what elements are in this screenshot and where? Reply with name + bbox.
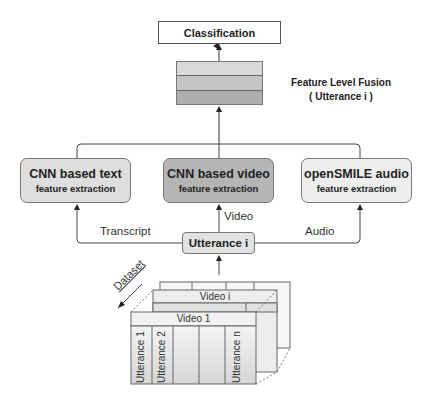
video-1-title: Video 1 xyxy=(131,313,256,324)
audio-extractor-box: openSMILE audio feature extraction xyxy=(301,158,412,203)
audio-extractor-subtitle: feature extraction xyxy=(317,182,397,195)
text-extractor-title: CNN based text xyxy=(29,166,121,182)
fusion-label: Feature Level Fusion ( Utterance i ) xyxy=(266,76,416,104)
video-extractor-title: CNN based video xyxy=(167,166,270,182)
audio-edge-label: Audio xyxy=(305,225,334,237)
fusion-band-3 xyxy=(177,91,262,104)
video-i-title: Video i xyxy=(153,291,277,302)
transcript-edge-label: Transcript xyxy=(100,225,151,237)
video-extractor-subtitle: feature extraction xyxy=(179,182,259,195)
utterance-1-label: Utterance 1 xyxy=(135,331,146,383)
utterance-n-label: Utterance n xyxy=(231,331,242,383)
feature-fusion-stack xyxy=(176,61,263,105)
audio-extractor-title: openSMILE audio xyxy=(304,166,409,182)
video-extractor-box: CNN based video feature extraction xyxy=(163,158,274,203)
fusion-subtitle: ( Utterance i ) xyxy=(266,90,416,104)
video-edge-label: Video xyxy=(224,210,253,222)
utterance-box: Utterance i xyxy=(182,232,255,254)
utterance-label: Utterance i xyxy=(189,237,248,249)
text-extractor-subtitle: feature extraction xyxy=(36,182,116,195)
fusion-title: Feature Level Fusion xyxy=(266,76,416,90)
classification-label: Classification xyxy=(184,27,256,39)
text-extractor-box: CNN based text feature extraction xyxy=(20,158,131,203)
fusion-band-1 xyxy=(177,62,262,76)
utterance-2-label: Utterance 2 xyxy=(156,331,167,383)
fusion-band-2 xyxy=(177,76,262,90)
classification-box: Classification xyxy=(158,21,281,44)
